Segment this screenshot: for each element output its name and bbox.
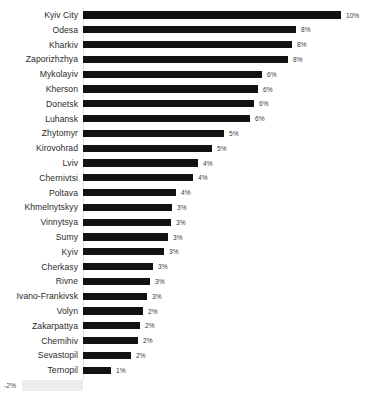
bar — [83, 174, 193, 181]
value-label: 6% — [263, 84, 273, 95]
value-label: 4% — [203, 158, 213, 169]
category-label: Zakarpattya — [0, 319, 78, 334]
bar — [83, 100, 254, 107]
category-label: Donetsk — [0, 97, 78, 112]
value-label: 6% — [259, 98, 269, 109]
category-label: Zhytomyr — [0, 126, 78, 141]
bar-row: Kyiv City10% — [0, 8, 376, 23]
category-label: Mykolayiv — [0, 67, 78, 82]
category-label: Kyiv City — [0, 8, 78, 23]
category-label: Chernivtsi — [0, 171, 78, 186]
bar — [83, 337, 138, 344]
category-label: Kharkiv — [0, 38, 78, 53]
bar — [83, 189, 176, 196]
bar — [83, 367, 111, 374]
category-label: Ivano-Frankivsk — [0, 289, 78, 304]
bar-row: Kirovohrad5% — [0, 141, 376, 156]
bar — [83, 11, 341, 18]
value-label: -2% — [4, 380, 16, 391]
bar-row: Rivne3% — [0, 274, 376, 289]
bar — [83, 204, 172, 211]
bar-row: Kharkiv8% — [0, 38, 376, 53]
category-label: Lviv — [0, 156, 78, 171]
value-label: 8% — [293, 54, 303, 65]
bar — [83, 278, 150, 285]
category-label: Sevastopil — [0, 348, 78, 363]
bar-row: Chernivtsi4% — [0, 171, 376, 186]
category-label: Chernihiv — [0, 334, 78, 349]
bar-row: Poltava4% — [0, 186, 376, 201]
bar — [83, 56, 288, 63]
bar-row: Volyn2% — [0, 304, 376, 319]
bar-row: Cherkasy3% — [0, 260, 376, 275]
bar-row: Mykolayiv6% — [0, 67, 376, 82]
value-label: 1% — [116, 365, 126, 376]
bar-row: Ivano-Frankivsk3% — [0, 289, 376, 304]
category-label: Kherson — [0, 82, 78, 97]
bar-row: Odesa8% — [0, 23, 376, 38]
value-label: 8% — [297, 39, 307, 50]
value-label: 3% — [177, 202, 187, 213]
bar — [83, 322, 140, 329]
value-label: 2% — [136, 350, 146, 361]
value-label: 3% — [173, 232, 183, 243]
value-label: 5% — [229, 128, 239, 139]
category-label: Luhansk — [0, 112, 78, 127]
bar — [22, 380, 83, 391]
bar-row: Sevastopil2% — [0, 348, 376, 363]
category-label: Cherkasy — [0, 260, 78, 275]
value-label: 3% — [176, 217, 186, 228]
category-label: Sumy — [0, 230, 78, 245]
value-label: 3% — [169, 246, 179, 257]
bar-row: Ternopil1% — [0, 363, 376, 378]
category-label: Odesa — [0, 23, 78, 38]
value-label: 4% — [181, 187, 191, 198]
bar-row: Chernihiv2% — [0, 334, 376, 349]
bar — [83, 219, 171, 226]
bar — [83, 71, 262, 78]
value-label: 10% — [346, 10, 359, 21]
category-label: Volyn — [0, 304, 78, 319]
value-label: 8% — [301, 24, 311, 35]
bar — [83, 233, 168, 240]
bar — [83, 293, 147, 300]
bar-row: Kyiv3% — [0, 245, 376, 260]
bar — [83, 130, 224, 137]
bar-row: Donetsk6% — [0, 97, 376, 112]
category-label: Poltava — [0, 186, 78, 201]
category-label: Vinnytsya — [0, 215, 78, 230]
value-label: 6% — [267, 69, 277, 80]
bar — [83, 248, 164, 255]
value-label: 2% — [143, 335, 153, 346]
value-label: 3% — [152, 291, 162, 302]
bar — [83, 26, 296, 33]
bar — [83, 352, 131, 359]
value-label: 3% — [155, 276, 165, 287]
bar-row: Vinnytsya3% — [0, 215, 376, 230]
bar-row: Luhansk6% — [0, 112, 376, 127]
bar-row: Zhytomyr5% — [0, 126, 376, 141]
value-label: 6% — [255, 113, 265, 124]
bar — [83, 263, 153, 270]
bar-row: Zaporizhzhya8% — [0, 52, 376, 67]
value-label: 2% — [145, 320, 155, 331]
category-label: Kirovohrad — [0, 141, 78, 156]
bar — [83, 85, 258, 92]
category-label: Khmelnytskyy — [0, 200, 78, 215]
plot-area: Kyiv City10%Odesa8%Kharkiv8%Zaporizhzhya… — [0, 8, 376, 380]
category-label: Ternopil — [0, 363, 78, 378]
category-label: Zaporizhzhya — [0, 52, 78, 67]
bar — [83, 41, 292, 48]
bar-row: Khmelnytskyy3% — [0, 200, 376, 215]
bar-row: Crimea-2% — [0, 378, 376, 393]
bar-row: Sumy3% — [0, 230, 376, 245]
category-label: Kyiv — [0, 245, 78, 260]
bar — [83, 145, 212, 152]
category-label: Rivne — [0, 274, 78, 289]
bar — [83, 159, 198, 166]
value-label: 3% — [158, 261, 168, 272]
bar — [83, 115, 250, 122]
value-label: 4% — [198, 172, 208, 183]
bar-row: Zakarpattya2% — [0, 319, 376, 334]
